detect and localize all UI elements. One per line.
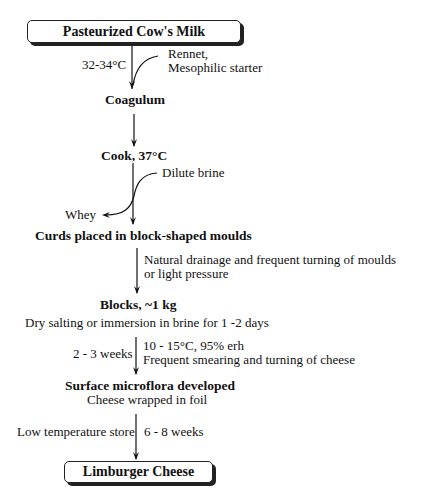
dilute-brine-label: Dilute brine	[162, 166, 224, 180]
arrow-additions	[133, 56, 158, 85]
ripening-conditions-2: Frequent smearing and turning of cheese	[143, 353, 355, 367]
drainage-line-1: Natural drainage and frequent turning of…	[144, 253, 396, 267]
end-box: Limburger Cheese	[64, 461, 213, 483]
arrow-brine-whey	[106, 173, 157, 215]
step-cook: Cook, 37°C	[101, 148, 167, 164]
step-curds-moulds: Curds placed in block-shaped moulds	[35, 228, 252, 244]
additions-line-1: Rennet,	[168, 47, 208, 61]
foil-note: Cheese wrapped in foil	[87, 393, 207, 407]
whey-label: Whey	[65, 208, 96, 222]
step-blocks: Blocks, ~1 kg	[100, 297, 176, 313]
drainage-line-2: or light pressure	[144, 267, 228, 281]
ripening-time: 2 - 3 weeks	[73, 347, 133, 361]
ripening-conditions-1: 10 - 15°C, 95% erh	[143, 339, 244, 353]
start-box-label: Pasteurized Cow's Milk	[63, 24, 205, 40]
start-box: Pasteurized Cow's Milk	[27, 20, 241, 43]
storage-label: Low temperature store	[17, 425, 135, 439]
additions-line-2: Mesophilic starter	[168, 61, 262, 75]
salting-note: Dry salting or immersion in brine for 1 …	[25, 316, 269, 330]
storage-time: 6 - 8 weeks	[144, 425, 204, 439]
step-coagulum: Coagulum	[105, 92, 165, 108]
coagulation-temperature: 32-34°C	[82, 58, 126, 72]
end-box-label: Limburger Cheese	[83, 464, 194, 480]
